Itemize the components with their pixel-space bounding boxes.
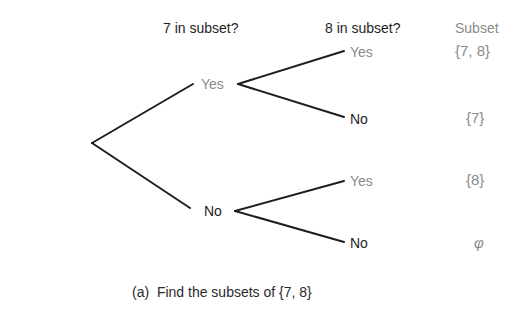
branch-yes-yes bbox=[238, 51, 344, 84]
node-7yes-8yes: Yes bbox=[350, 44, 373, 60]
branch-yes-no bbox=[238, 84, 344, 117]
node-7no-8no: No bbox=[350, 235, 368, 251]
node-7-yes: Yes bbox=[201, 76, 224, 92]
header-subset: Subset bbox=[455, 20, 499, 36]
subset-7-8: {7, 8} bbox=[455, 43, 490, 59]
subset-7: {7} bbox=[466, 110, 484, 126]
header-8-in-subset: 8 in subset? bbox=[325, 20, 401, 36]
figure-caption: (a) Find the subsets of {7, 8} bbox=[132, 284, 312, 300]
node-7-no: No bbox=[204, 203, 222, 219]
branch-no-no bbox=[235, 211, 344, 242]
node-7no-8yes: Yes bbox=[350, 173, 373, 189]
branch-root-no bbox=[92, 143, 190, 208]
tree-branches bbox=[0, 0, 526, 314]
node-7yes-8no: No bbox=[350, 111, 368, 127]
subset-8: {8} bbox=[466, 172, 484, 188]
subset-empty: φ bbox=[474, 235, 484, 251]
branch-no-yes bbox=[235, 181, 344, 211]
header-7-in-subset: 7 in subset? bbox=[163, 20, 239, 36]
branch-root-yes bbox=[92, 84, 193, 143]
